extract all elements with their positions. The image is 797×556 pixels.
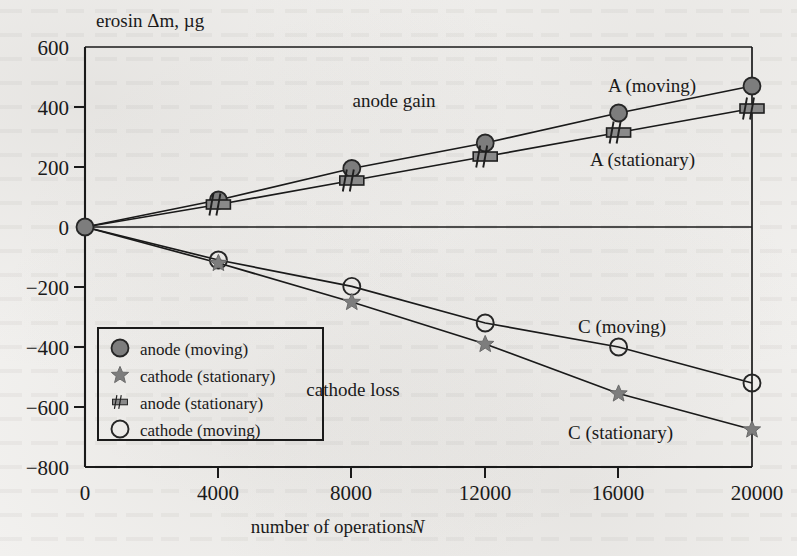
legend-item-anode-stationary[interactable]: anode (stationary)	[113, 394, 264, 413]
y-axis-title: erosin Δm, µg	[96, 10, 205, 31]
x-tick-label: 4000	[197, 481, 239, 505]
erosion-line-chart: 600 400 200 0 −200 −400 −600 −800 0 4000…	[0, 0, 797, 556]
x-axis-title-main: number of operations	[251, 516, 414, 537]
legend-item-cathode-moving[interactable]: cathode (moving)	[112, 421, 261, 441]
x-tick-label: 20000	[731, 481, 784, 505]
x-axis-title-symbol: N	[411, 516, 426, 537]
y-tick-labels: 600 400 200 0 −200 −400 −600 −800	[26, 36, 69, 480]
annotation-c-stationary: C (stationary)	[568, 422, 673, 444]
y-tick-label: −200	[26, 276, 69, 300]
legend-item-label: anode (stationary)	[140, 394, 263, 413]
annotation-a-moving: A (moving)	[608, 75, 696, 97]
annotation-anode-gain: anode gain	[353, 90, 436, 111]
y-tick-label: 600	[38, 36, 70, 60]
filled-circle-icon	[744, 78, 761, 95]
filled-circle-icon	[112, 340, 129, 357]
x-tick-label: 16000	[592, 481, 645, 505]
origin-marker	[77, 219, 94, 236]
filled-star-icon	[111, 366, 128, 382]
x-tick-label: 0	[80, 481, 91, 505]
annotation-cathode-loss: cathode loss	[306, 379, 399, 400]
legend: anode (moving) cathode (stationary) anod…	[98, 328, 323, 440]
y-axis-ticks	[74, 107, 85, 407]
x-tick-labels: 0 4000 8000 12000 16000 20000	[80, 481, 784, 505]
hatched-bar-icon	[113, 395, 128, 409]
y-tick-label: −800	[26, 456, 69, 480]
filled-star-icon	[343, 293, 360, 309]
annotation-c-moving: C (moving)	[578, 316, 666, 338]
filled-star-icon	[477, 335, 494, 351]
x-axis-ticks	[218, 467, 618, 478]
y-tick-label: 200	[38, 156, 70, 180]
chart-figure: 600 400 200 0 −200 −400 −600 −800 0 4000…	[0, 0, 797, 556]
filled-circle-icon	[610, 105, 627, 122]
scanned-page: 600 400 200 0 −200 −400 −600 −800 0 4000…	[0, 0, 797, 556]
legend-item-cathode-stationary[interactable]: cathode (stationary)	[111, 366, 275, 386]
filled-star-icon	[610, 385, 627, 401]
legend-item-label: cathode (stationary)	[140, 367, 275, 386]
y-tick-label: −400	[26, 336, 69, 360]
y-tick-label: 400	[38, 96, 70, 120]
series-line	[85, 227, 752, 383]
x-tick-label: 8000	[330, 481, 372, 505]
legend-item-label: anode (moving)	[140, 340, 248, 359]
open-circle-icon	[112, 421, 129, 438]
y-tick-label: −600	[26, 396, 69, 420]
y-tick-label: 0	[59, 216, 70, 240]
hatched-bar-icon	[607, 122, 631, 144]
annotation-a-stationary: A (stationary)	[590, 149, 695, 171]
x-axis-title: number of operations N	[251, 516, 426, 537]
legend-item-anode-moving[interactable]: anode (moving)	[112, 340, 249, 360]
x-tick-label: 12000	[459, 481, 512, 505]
legend-item-label: cathode (moving)	[140, 421, 260, 440]
